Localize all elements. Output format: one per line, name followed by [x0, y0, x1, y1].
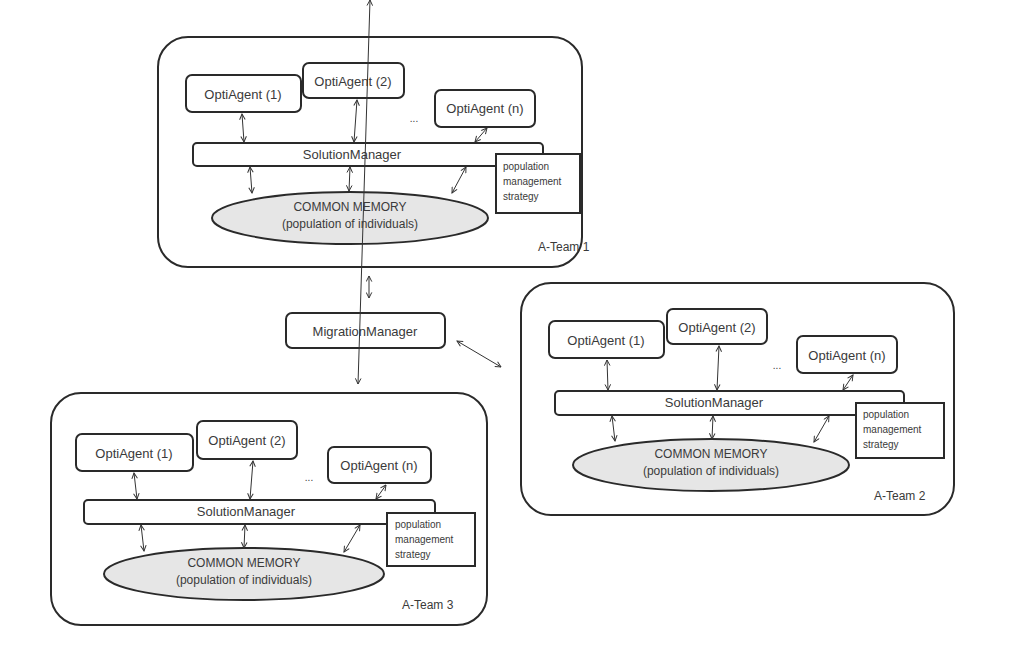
- memory-title: COMMON MEMORY: [187, 556, 300, 570]
- opti-agent-1-label: OptiAgent (1): [95, 446, 172, 461]
- strategy-line-3: strategy: [395, 549, 431, 560]
- solution-manager-label: SolutionManager: [197, 504, 296, 519]
- solution-manager-label: SolutionManager: [665, 395, 764, 410]
- ellipsis: ...: [305, 472, 313, 483]
- memory-title: COMMON MEMORY: [293, 200, 406, 214]
- opti-agent-2-label: OptiAgent (2): [208, 433, 285, 448]
- strategy-line-1: population: [395, 519, 441, 530]
- migration-manager-label: MigrationManager: [313, 324, 418, 339]
- memory-subtitle: (population of individuals): [176, 573, 312, 587]
- strategy-line-3: strategy: [863, 439, 899, 450]
- strategy-line-2: management: [395, 534, 454, 545]
- opti-agent-2-label: OptiAgent (2): [678, 320, 755, 335]
- opti-agent-n-label: OptiAgent (n): [808, 348, 885, 363]
- opti-agent-2-label: OptiAgent (2): [314, 74, 391, 89]
- team-label: A-Team 2: [874, 489, 926, 503]
- a-team-3: OptiAgent (1) OptiAgent (2) OptiAgent (n…: [51, 393, 487, 625]
- strategy-line-2: management: [863, 424, 922, 435]
- memory-title: COMMON MEMORY: [654, 447, 767, 461]
- team-label: A-Team 1: [538, 240, 590, 254]
- opti-agent-1-label: OptiAgent (1): [567, 333, 644, 348]
- strategy-line-1: population: [503, 161, 549, 172]
- team-label: A-Team 3: [402, 598, 454, 612]
- memory-subtitle: (population of individuals): [282, 217, 418, 231]
- strategy-line-1: population: [863, 409, 909, 420]
- diagram-canvas: OptiAgent (1) OptiAgent (2) OptiAgent (n…: [0, 0, 1023, 661]
- a-team-2: OptiAgent (1) OptiAgent (2) OptiAgent (n…: [521, 283, 954, 515]
- a-team-1: OptiAgent (1) OptiAgent (2) OptiAgent (n…: [158, 37, 590, 267]
- strategy-line-2: management: [503, 176, 562, 187]
- strategy-line-3: strategy: [503, 191, 539, 202]
- ellipsis: ...: [410, 113, 418, 124]
- solution-manager-label: SolutionManager: [303, 147, 402, 162]
- opti-agent-n-label: OptiAgent (n): [446, 101, 523, 116]
- opti-agent-1-label: OptiAgent (1): [204, 87, 281, 102]
- memory-subtitle: (population of individuals): [643, 464, 779, 478]
- opti-agent-n-label: OptiAgent (n): [340, 458, 417, 473]
- arrow-mm-team2: [457, 341, 501, 367]
- ellipsis: ...: [773, 360, 781, 371]
